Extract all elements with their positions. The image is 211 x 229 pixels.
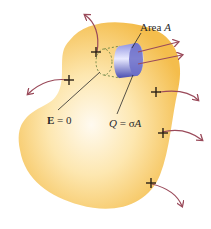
label-field-zero: E = 0: [47, 114, 72, 126]
conductor-diagram: Area A E = 0 Q = σA: [0, 0, 211, 229]
pillbox-outer-face: [129, 43, 143, 76]
field-arrow-right-lower: [152, 184, 182, 206]
label-charge: Q = σA: [109, 117, 142, 129]
label-area: Area A: [140, 21, 171, 33]
conductor-body: [19, 22, 180, 209]
